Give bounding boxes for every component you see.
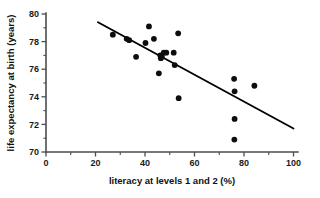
data-point — [231, 137, 237, 143]
x-tick-label: 40 — [140, 158, 150, 168]
data-point — [176, 95, 182, 101]
data-point — [163, 50, 169, 56]
data-point — [171, 50, 177, 56]
data-point — [175, 30, 181, 36]
data-point — [231, 76, 237, 82]
data-point — [172, 62, 178, 68]
chart-svg: 707274767880 020406080100 literacy at le… — [0, 0, 320, 198]
x-tick-label: 80 — [239, 158, 249, 168]
x-axis-title: literacy at levels 1 and 2 (%) — [109, 175, 235, 186]
y-axis-title: life expectancy at birth (years) — [5, 15, 16, 152]
x-tick-label: 100 — [286, 158, 301, 168]
x-tick-label: 0 — [43, 158, 48, 168]
data-point — [110, 32, 116, 38]
x-axis-tick-labels: 020406080100 — [43, 158, 301, 168]
data-point — [126, 37, 132, 43]
y-tick-label: 80 — [29, 9, 39, 19]
y-tick-label: 72 — [29, 120, 39, 130]
data-point — [156, 70, 162, 76]
y-tick-label: 70 — [29, 147, 39, 157]
y-tick-label: 76 — [29, 64, 39, 74]
plot-axes — [46, 13, 298, 152]
data-point — [232, 116, 238, 122]
data-point — [251, 83, 257, 89]
data-point — [151, 36, 157, 42]
x-tick-label: 20 — [90, 158, 100, 168]
scatter-chart-figure: 707274767880 020406080100 literacy at le… — [0, 0, 320, 198]
y-tick-label: 74 — [29, 92, 39, 102]
data-point — [232, 88, 238, 94]
x-tick-label: 60 — [189, 158, 199, 168]
y-tick-label: 78 — [29, 37, 39, 47]
y-axis-tick-labels: 707274767880 — [29, 9, 39, 157]
data-point — [146, 24, 152, 30]
data-point — [133, 54, 139, 60]
data-point — [143, 40, 149, 46]
